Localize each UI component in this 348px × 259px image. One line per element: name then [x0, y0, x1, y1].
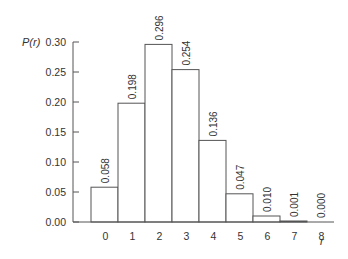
- y-tick-label: 0.25: [46, 66, 67, 78]
- y-tick-label: 0.05: [46, 186, 67, 198]
- x-tick-label: 2: [157, 230, 163, 242]
- bar-r-4: [199, 140, 226, 222]
- x-ticks: 012345678: [103, 230, 325, 242]
- x-tick-label: 4: [211, 230, 217, 242]
- bar-r-0: [91, 187, 118, 222]
- bar-r-2: [145, 44, 172, 222]
- value-label: 0.001: [289, 192, 300, 217]
- value-label: 0.010: [262, 187, 273, 212]
- x-tick-label: 0: [103, 230, 109, 242]
- value-label: 0.000: [316, 193, 327, 218]
- value-label: 0.136: [208, 111, 219, 136]
- y-axis-title: P(r): [22, 36, 41, 48]
- value-label: 0.296: [154, 15, 165, 40]
- y-tick-label: 0.15: [46, 126, 67, 138]
- x-tick-label: 3: [184, 230, 190, 242]
- y-tick-label: 0.00: [46, 216, 67, 228]
- bar-r-5: [226, 194, 253, 222]
- value-label: 0.254: [181, 40, 192, 65]
- y-tick-label: 0.10: [46, 156, 67, 168]
- bar-r-1: [118, 103, 145, 222]
- x-tick-label: 6: [265, 230, 271, 242]
- bars-group: [91, 44, 307, 222]
- y-ticks: 0.000.050.100.150.200.250.30: [46, 36, 79, 228]
- x-tick-label: 7: [292, 230, 298, 242]
- bar-chart: 0.000.050.100.150.200.250.30 012345678 0…: [0, 0, 348, 259]
- x-tick-label: 5: [238, 230, 244, 242]
- y-tick-label: 0.30: [46, 36, 67, 48]
- bar-r-3: [172, 70, 199, 222]
- bar-r-6: [253, 216, 280, 222]
- y-tick-label: 0.20: [46, 96, 67, 108]
- value-label: 0.058: [100, 158, 111, 183]
- value-label: 0.047: [235, 164, 246, 189]
- x-tick-label: 1: [130, 230, 136, 242]
- value-label: 0.198: [127, 74, 138, 99]
